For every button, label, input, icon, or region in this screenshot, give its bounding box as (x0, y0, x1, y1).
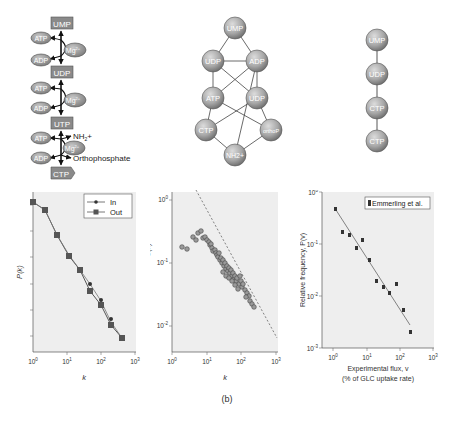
svg-text:10-2: 10-2 (157, 321, 169, 329)
metabolite-UMP: UMP (51, 17, 73, 29)
svg-text:103: 103 (271, 357, 281, 365)
flux-distribution-chart: Emmerling et al. 100 101 102 103 100 10-… (300, 190, 454, 390)
backbone-network-graph: UMP UDP CTP CTP (300, 0, 454, 190)
y-axis-label: P(k) (15, 265, 24, 279)
full-network-graph: UMP UDP ADP ATP UDP CTP orthoP NH2+ (150, 0, 310, 190)
svg-text:Out: Out (110, 208, 123, 217)
svg-text:101: 101 (362, 353, 372, 361)
node-UMP: UMP (224, 17, 246, 39)
legend: In Out (84, 194, 132, 218)
chain-node-CTP-1: CTP (366, 97, 388, 119)
node-CTP: CTP (195, 119, 217, 141)
cofactor-ADP-1: ADP (31, 54, 51, 66)
svg-text:CTP: CTP (199, 126, 214, 135)
y-tick-labels: 100 10-1 10-2 (157, 195, 169, 329)
node-ATP: ATP (202, 87, 224, 109)
svg-text:ATP: ATP (34, 35, 47, 42)
chain-node-CTP-2: CTP (366, 130, 388, 152)
cofactor-ADP-2: ADP (31, 102, 51, 114)
node-UDP-2: UDP (246, 87, 268, 109)
clustering-chart: 100 101 102 103 100 10-1 10-2 k C(k) (150, 190, 300, 385)
ion-mg-2: Mg2+ (64, 93, 86, 107)
legend: Emmerling et al. (365, 197, 430, 209)
cofactor-ATP-1: ATP (31, 32, 51, 44)
x-axis-label: k (223, 373, 228, 382)
x-tick-labels: 100 101 102 103 (28, 357, 140, 365)
orthophosphate-label: Orthophosphate (73, 154, 131, 163)
svg-text:101: 101 (62, 357, 72, 365)
svg-text:UDP: UDP (54, 69, 71, 78)
svg-text:UDP: UDP (369, 70, 385, 79)
node-orthoP: orthoP (260, 119, 282, 141)
figure-caption: (b) (0, 394, 454, 404)
ion-mg-3: Mg2+ (63, 141, 85, 155)
svg-text:100: 100 (167, 357, 177, 365)
svg-text:10-1: 10-1 (307, 240, 319, 248)
ion-mg-1: Mg2+ (64, 43, 86, 57)
metabolite-UTP: UTP (51, 117, 73, 129)
svg-text:ADP: ADP (249, 57, 264, 66)
svg-text:CTP: CTP (370, 137, 385, 146)
svg-text:orthoP: orthoP (263, 128, 280, 134)
pathway-diagram: UMP UDP UTP CTP ATP A (0, 0, 150, 190)
svg-text:102: 102 (236, 357, 246, 365)
svg-text:100: 100 (158, 195, 168, 203)
cofactor-ADP-3: ADP (31, 152, 51, 164)
cofactor-ATP-3: ATP (31, 132, 51, 144)
svg-text:100: 100 (328, 353, 338, 361)
svg-text:102: 102 (96, 357, 106, 365)
svg-text:100: 100 (308, 190, 318, 196)
svg-text:10-2: 10-2 (307, 292, 319, 300)
svg-text:ATP: ATP (34, 85, 47, 92)
svg-text:102: 102 (395, 353, 405, 361)
svg-text:UTP: UTP (54, 120, 70, 129)
x-axis-label: Experimental flux, v (347, 365, 409, 373)
svg-text:CTP: CTP (53, 170, 69, 179)
svg-text:ADP: ADP (34, 105, 49, 112)
svg-text:101: 101 (202, 357, 212, 365)
svg-text:ATP: ATP (206, 94, 220, 103)
y-axis-label: C(k) (150, 242, 152, 257)
cofactor-ATP-2: ATP (31, 82, 51, 94)
svg-text:NH2+: NH2+ (226, 152, 244, 159)
svg-text:UDP: UDP (249, 94, 265, 103)
chain-node-UDP: UDP (366, 63, 388, 85)
x-tick-labels: 100 101 102 103 (328, 353, 438, 361)
metabolite-UDP: UDP (51, 66, 73, 78)
x-tick-labels: 100 101 102 103 (167, 357, 281, 365)
svg-text:UMP: UMP (227, 24, 244, 33)
svg-text:UMP: UMP (369, 36, 386, 45)
svg-text:100: 100 (28, 357, 38, 365)
svg-text:CTP: CTP (370, 104, 385, 113)
degree-distribution-chart: In Out 100 101 102 103 k P(k) (0, 190, 150, 385)
svg-text:103: 103 (428, 353, 438, 361)
svg-text:UDP: UDP (205, 57, 221, 66)
x-axis-label: k (82, 373, 87, 382)
node-ADP: ADP (246, 50, 268, 72)
svg-text:ADP: ADP (34, 155, 49, 162)
svg-text:10-1: 10-1 (157, 258, 169, 266)
svg-text:103: 103 (130, 357, 140, 365)
svg-text:ATP: ATP (34, 135, 47, 142)
metabolite-CTP: CTP (51, 167, 75, 179)
svg-text:In: In (110, 198, 116, 207)
svg-text:UMP: UMP (53, 20, 71, 29)
nh2-label: NH2+ (73, 132, 92, 142)
chain-node-UMP: UMP (366, 29, 388, 51)
node-UDP-1: UDP (202, 50, 224, 72)
x-axis-label-2: (% of GLC uptake rate) (342, 375, 414, 383)
y-tick-labels: 100 10-1 10-2 10-3 (307, 190, 319, 352)
svg-text:ADP: ADP (34, 57, 49, 64)
svg-text:Emmerling et al.: Emmerling et al. (372, 200, 423, 208)
node-NH2: NH2+ (224, 144, 246, 166)
svg-text:10-3: 10-3 (307, 344, 319, 352)
y-axis-label: Relative frequency, P(v) (300, 233, 307, 307)
